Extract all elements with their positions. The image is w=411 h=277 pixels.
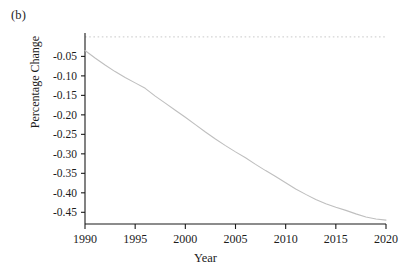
y-tick-label: -0.25 [53, 128, 77, 140]
x-tick-label: 2005 [224, 232, 248, 246]
x-tick-label: 2015 [324, 232, 348, 246]
axis-lines [85, 33, 386, 224]
data-series-group [85, 51, 386, 221]
y-tick-label: -0.15 [53, 89, 77, 101]
x-tick-label: 1995 [123, 232, 147, 246]
y-axis-tick-labels: -0.05-0.10-0.15-0.20-0.25-0.30-0.35-0.40… [53, 50, 77, 218]
y-tick-label: -0.20 [53, 109, 77, 121]
y-tick-label: -0.10 [53, 70, 77, 82]
y-tick-label: -0.45 [53, 206, 77, 218]
line-chart-plot: -0.05-0.10-0.15-0.20-0.25-0.30-0.35-0.40… [0, 0, 411, 277]
x-tick-label: 2010 [274, 232, 298, 246]
y-tick-label: -0.05 [53, 50, 77, 62]
y-tick-label: -0.30 [53, 148, 77, 160]
x-tick-label: 1990 [73, 232, 97, 246]
x-axis-label: Year [0, 252, 411, 265]
x-axis-tick-marks [85, 224, 386, 229]
series-line-percentage-change [85, 51, 386, 221]
y-axis-tick-marks [81, 56, 85, 212]
x-tick-label: 2000 [173, 232, 197, 246]
x-axis-tick-labels: 1990199520002005201020152020 [73, 232, 398, 246]
y-tick-label: -0.35 [53, 167, 77, 179]
y-tick-label: -0.40 [53, 187, 77, 199]
x-tick-label: 2020 [374, 232, 398, 246]
figure-panel-b: (b) Percentage Change -0.05-0.10-0.15-0.… [0, 0, 411, 277]
